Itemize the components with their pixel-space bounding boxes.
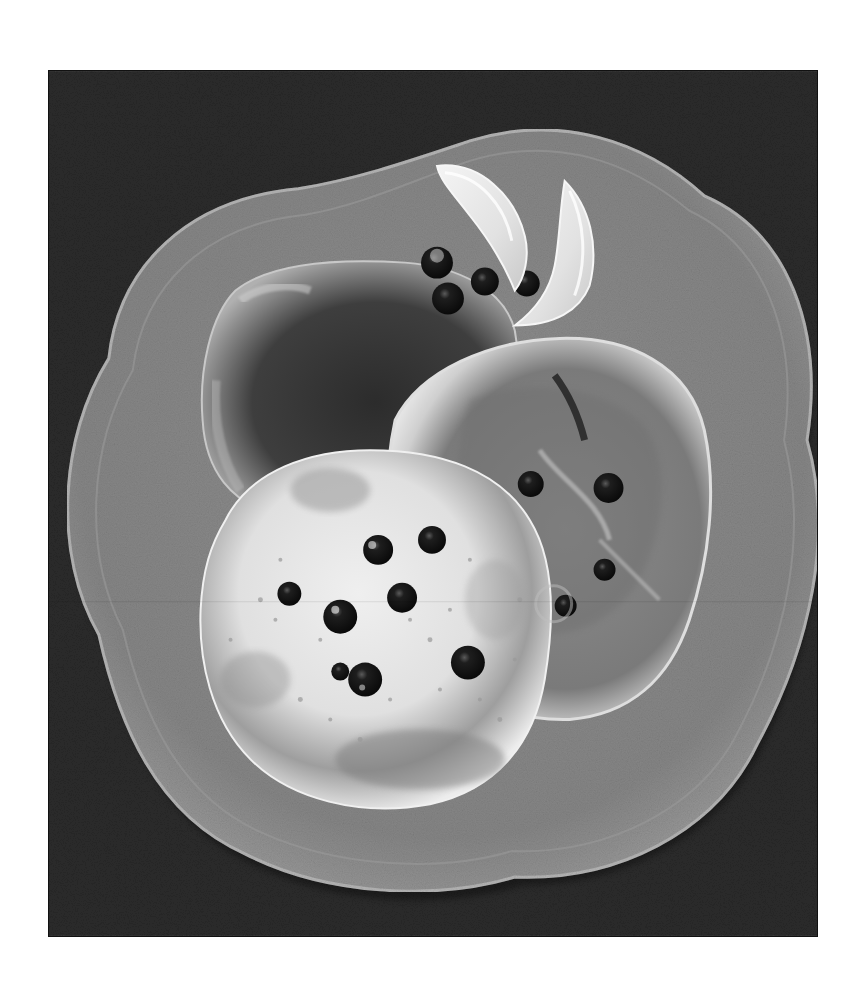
- food-photo: Black-and-white photo of three blueberry…: [48, 70, 818, 937]
- front-pancake: [200, 450, 551, 808]
- photo-canvas: [49, 71, 817, 936]
